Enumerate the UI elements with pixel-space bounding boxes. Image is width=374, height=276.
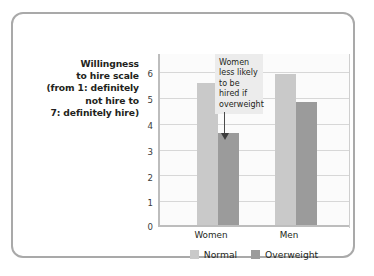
y-axis-title-line-1: Willingness — [29, 58, 139, 70]
x-tick-label-women: Women — [181, 230, 241, 240]
y-tick-label-2: 2 — [135, 173, 153, 183]
bar-women-overweight — [218, 133, 239, 225]
annotation-line-2: less likely — [219, 68, 260, 78]
y-tick-label-3: 3 — [135, 147, 153, 157]
y-tick-label-0: 0 — [135, 222, 153, 232]
annotation-callout: Women less likely to be hired if overwei… — [215, 54, 263, 114]
gridline-4 — [160, 124, 350, 125]
y-axis-title-line-3: (from 1: definitely — [29, 82, 139, 94]
x-tick-label-men: Men — [259, 230, 319, 240]
legend-item-overweight: Overweight — [251, 249, 318, 260]
legend-swatch-overweight — [251, 250, 260, 259]
annotation-line-5: overweight — [219, 100, 260, 110]
y-axis-title-line-4: not hire to — [29, 95, 139, 107]
gridline-3 — [160, 150, 350, 151]
y-axis-title-line-2: to hire scale — [29, 70, 139, 82]
bar-men-overweight — [296, 102, 317, 225]
legend-swatch-normal — [190, 250, 199, 259]
y-tick-label-5: 5 — [135, 95, 153, 105]
bar-men-normal — [275, 74, 296, 225]
down-arrow-icon — [221, 133, 229, 140]
y-tick-label-6: 6 — [135, 69, 153, 79]
annotation-line-1: Women — [219, 58, 260, 68]
y-axis-title: Willingness to hire scale (from 1: defin… — [29, 58, 139, 119]
gridline-1 — [160, 201, 350, 202]
gridline-2 — [160, 175, 350, 176]
y-tick-label-1: 1 — [135, 198, 153, 208]
annotation-line-3: to be — [219, 79, 260, 89]
plot-right-edge — [349, 54, 350, 228]
legend-label-overweight: Overweight — [265, 249, 318, 260]
chart-card: Willingness to hire scale (from 1: defin… — [11, 12, 355, 258]
chart-page: Willingness to hire scale (from 1: defin… — [0, 0, 374, 276]
legend-label-normal: Normal — [204, 249, 237, 260]
y-tick-label-4: 4 — [135, 121, 153, 131]
y-axis-title-line-5: 7: definitely hire) — [29, 107, 139, 119]
legend-item-normal: Normal — [190, 249, 237, 260]
annotation-line-4: hired if — [219, 89, 260, 99]
chart-legend: Normal Overweight — [158, 249, 350, 260]
